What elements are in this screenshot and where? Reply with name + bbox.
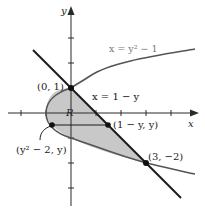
region-label: R [65,107,74,118]
y-axis-arrow-icon [68,6,75,15]
parabola-label: x = y² − 1 [109,43,158,54]
top-intersection-label: (0, 1) [37,81,64,92]
right-sample-label: (1 − y, y) [113,119,158,130]
x-axis-arrow-icon [190,110,199,117]
point-right-sample [105,122,111,128]
x-axis-label: x [188,118,194,129]
leader-line [40,126,51,140]
left-sample-label: (y² − 2, y) [16,144,67,155]
axes: x y [8,5,199,206]
point-left-sample [49,122,55,128]
bottom-intersection-label: (3, −2) [148,151,183,162]
region-diagram: x y x = y² − 1 x = 1 − y (0, 1) (3, −2) … [0,0,205,217]
line-label: x = 1 − y [92,91,139,102]
point-top-intersection [68,85,74,91]
y-axis-label: y [60,5,67,16]
